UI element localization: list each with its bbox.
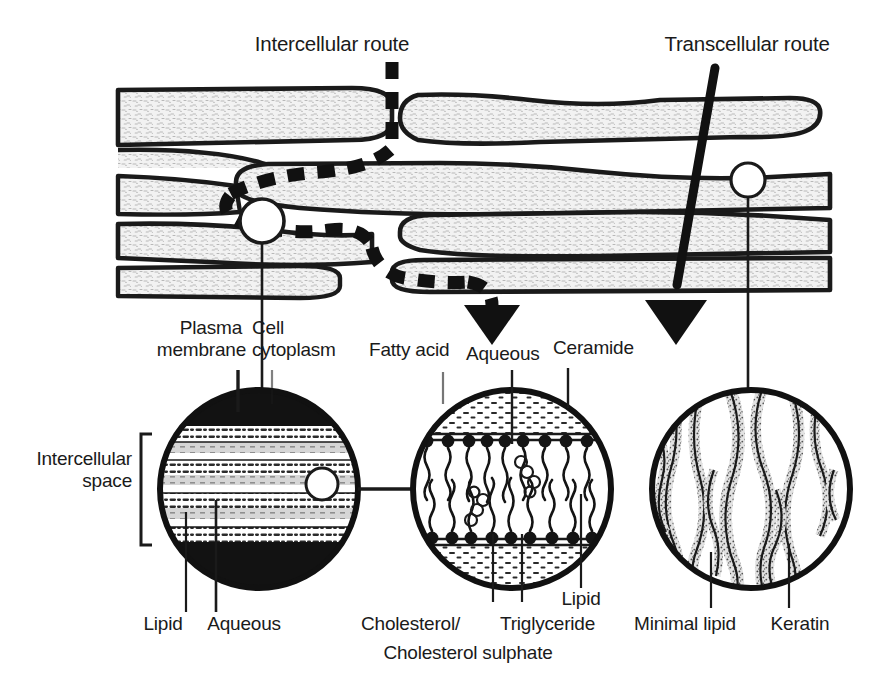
right-callout-circle — [650, 388, 854, 594]
intercellular-arrowhead — [464, 305, 520, 345]
cholesterol-sulphate-label: Cholesterol sulphate — [383, 642, 552, 663]
lipid-mid-label: Lipid — [561, 588, 600, 609]
ceramide-label: Ceramide — [553, 337, 634, 358]
triglyceride-label: Triglyceride — [500, 613, 595, 634]
aqueous-top-label: Aqueous — [466, 343, 540, 364]
cholesterol-label: Cholesterol/ — [280, 613, 460, 634]
aqueous-left-label: Aqueous — [207, 613, 281, 634]
left-callout-circle — [158, 390, 364, 590]
intercellular-space-bracket — [141, 434, 152, 545]
plasma-membrane-label-line1: Plasma — [172, 317, 242, 338]
intercellular-space-label-line1: Intercellular — [12, 448, 132, 469]
plasma-membrane-label-line2: membrane — [150, 339, 246, 360]
intercellular-space-label-line2: space — [12, 470, 132, 491]
minimal-lipid-label: Minimal lipid — [634, 613, 736, 634]
lipid-left-label: Lipid — [143, 613, 182, 634]
skin-permeation-diagram: Intercellular route Transcellular route … — [0, 0, 890, 690]
cell-cytoplasm-label-line2: cytoplasm — [252, 339, 336, 360]
cell-cytoplasm-label-line1: Cell — [252, 317, 284, 338]
keratin-label: Keratin — [771, 613, 830, 634]
fatty-acid-label: Fatty acid — [369, 339, 449, 360]
intercellular-route-label: Intercellular route — [255, 33, 410, 56]
transcellular-route-label: Transcellular route — [664, 33, 829, 56]
